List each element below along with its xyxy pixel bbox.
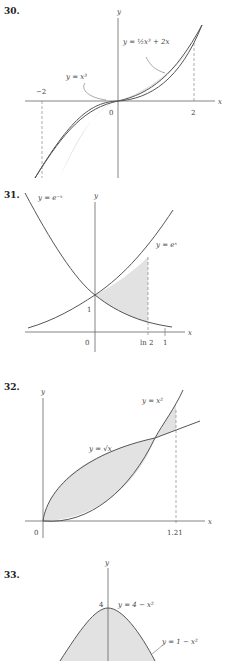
svg-text:1.21: 1.21 (167, 529, 183, 537)
svg-text:y: y (104, 560, 110, 567)
svg-text:1: 1 (163, 339, 167, 347)
svg-text:4: 4 (99, 601, 104, 609)
svg-text:1: 1 (87, 306, 91, 314)
graph-30: y x y = x³ y = ½x³ + 2x −2 0 2 (0, 0, 228, 185)
svg-text:x: x (188, 329, 192, 337)
svg-text:y: y (93, 192, 99, 200)
graph-31: y x y = e⁻ˣ y = eˣ 0 1 ln 2 1 (0, 190, 228, 360)
svg-text:y = ½x³ + 2x: y = ½x³ + 2x (122, 38, 170, 46)
figure-33: 33. y 4 y = 4 − x² y = 1 − x² (0, 560, 228, 661)
svg-text:y = x²: y = x² (141, 397, 163, 405)
svg-text:y: y (40, 388, 46, 396)
svg-text:y = eˣ: y = eˣ (155, 241, 177, 249)
svg-text:x: x (218, 98, 222, 106)
figure-32: 32. y x y = x² y = √x 0 1.21 (0, 370, 228, 540)
svg-text:−2: −2 (36, 88, 46, 96)
svg-text:x: x (208, 518, 212, 526)
svg-text:y = e⁻ˣ: y = e⁻ˣ (37, 194, 63, 202)
svg-text:2: 2 (191, 109, 195, 117)
svg-text:y = 4 − x²: y = 4 − x² (117, 601, 154, 609)
svg-text:y = √x: y = √x (88, 445, 112, 453)
figure-30: 30. y x y = x³ y = ½x³ + 2x −2 0 2 (0, 0, 228, 185)
figure-31: 31. y x y = e⁻ˣ y = eˣ 0 1 ln 2 1 (0, 190, 228, 360)
svg-text:ln 2: ln 2 (140, 339, 153, 347)
svg-text:0: 0 (34, 529, 38, 537)
graph-32: y x y = x² y = √x 0 1.21 (0, 370, 228, 540)
svg-text:0: 0 (85, 339, 89, 347)
svg-text:0: 0 (109, 109, 113, 117)
svg-text:y = x³: y = x³ (65, 73, 87, 81)
svg-text:y: y (116, 8, 122, 16)
svg-text:y = 1 − x²: y = 1 − x² (161, 638, 198, 646)
graph-33: y 4 y = 4 − x² y = 1 − x² (0, 560, 228, 661)
